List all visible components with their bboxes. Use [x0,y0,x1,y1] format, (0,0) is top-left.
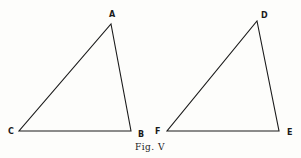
vertex-label-f: F [155,127,160,136]
vertex-label-b: B [138,130,144,139]
triangle-def: D E F [155,11,292,137]
figure-v-diagram: A B C D E F Fig. V [0,0,301,158]
triangle-abc: A B C [8,10,144,139]
figure-caption: Fig. V [135,142,165,152]
vertex-label-d: D [261,11,268,20]
vertex-label-c: C [8,127,14,136]
vertex-label-e: E [287,128,292,137]
vertex-label-a: A [109,10,116,19]
triangle-def-outline [167,21,279,131]
triangle-abc-outline [19,24,131,131]
